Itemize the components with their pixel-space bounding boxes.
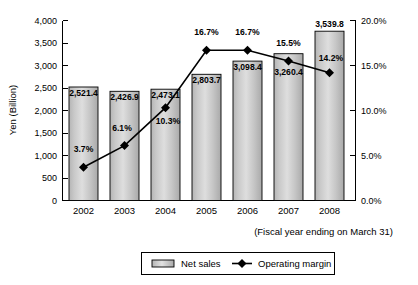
margin-value-2004: 10.3%: [156, 116, 181, 126]
y2-tick-label-0: 0.0%: [361, 196, 382, 206]
margin-value-2002: 3.7%: [74, 144, 94, 154]
legend-label-net-sales: Net sales: [181, 258, 221, 269]
bar-value-2006: 3,098.4: [233, 62, 262, 72]
x-label-2008: 2008: [319, 205, 340, 216]
x-label-2004: 2004: [155, 205, 176, 216]
y-tick-label-2000: 2,000: [34, 106, 57, 116]
x-label-2003: 2003: [114, 205, 135, 216]
bar-value-2002: 2,521.4: [69, 88, 98, 98]
x-label-2006: 2006: [237, 205, 258, 216]
y-tick-label-500: 500: [42, 173, 57, 183]
legend-swatch-net-sales: [152, 260, 174, 267]
y-tick-label-1000: 1,000: [34, 151, 57, 161]
y-tick-label-3500: 3,500: [34, 38, 57, 48]
bar-value-2005: 2,803.7: [192, 75, 221, 85]
chart-container: 0 500 1,000 1,500 2,000 2,500 3,000 3,50…: [0, 0, 418, 285]
bar-2006: [233, 61, 262, 200]
margin-value-2008: 14.2%: [319, 53, 344, 63]
y-tick-label-2500: 2,500: [34, 83, 57, 93]
chart-legend: Net sales Operating margin: [142, 253, 335, 275]
y-tick-label-4000: 4,000: [34, 16, 57, 26]
legend-label-operating-margin: Operating margin: [258, 258, 331, 269]
y2-tick-label-10: 10.0%: [361, 106, 387, 116]
margin-value-2007: 15.5%: [276, 38, 301, 48]
y-tick-label-1500: 1,500: [34, 128, 57, 138]
fiscal-year-note: (Fiscal year ending on March 31): [254, 226, 393, 237]
net-sales-operating-margin-chart: 0 500 1,000 1,500 2,000 2,500 3,000 3,50…: [0, 0, 418, 285]
y-axis-title: Yen (Billion): [7, 85, 18, 135]
x-label-2002: 2002: [73, 205, 94, 216]
margin-value-2003: 6.1%: [112, 123, 132, 133]
bar-value-2008: 3,539.8: [315, 19, 344, 29]
y-tick-label-0: 0: [52, 196, 57, 206]
y-tick-label-3000: 3,000: [34, 61, 57, 71]
margin-value-2006: 16.7%: [235, 27, 260, 37]
y2-tick-label-15: 15.0%: [361, 61, 387, 71]
margin-value-2005: 16.7%: [194, 27, 219, 37]
y2-tick-label-20: 20.0%: [361, 16, 387, 26]
x-label-2007: 2007: [278, 205, 299, 216]
y2-tick-label-5: 5.0%: [361, 151, 382, 161]
x-label-2005: 2005: [196, 205, 217, 216]
bar-2005: [192, 74, 221, 200]
bar-value-2003: 2,426.9: [110, 92, 139, 102]
bar-value-2007: 3,260.4: [274, 67, 303, 77]
